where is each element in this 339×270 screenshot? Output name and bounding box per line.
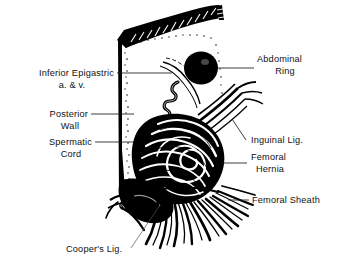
label-abdominal-ring-line1: Abdominal xyxy=(257,54,302,64)
anatomy-figure: Inferior Epigastric a. & v. Posterior Wa… xyxy=(0,0,339,270)
label-femoral-sheath: Femoral Sheath xyxy=(252,195,320,205)
label-femoral-hernia-line1: Femoral xyxy=(251,152,286,162)
label-inguinal-ligament: Inguinal Lig. xyxy=(251,135,303,145)
label-femoral-hernia-line2: Hernia xyxy=(256,164,285,174)
label-inferior-epigastric-line2: a. & v. xyxy=(59,80,86,90)
label-spermatic-cord-line2: Cord xyxy=(61,149,82,159)
label-coopers-ligament: Cooper's Lig. xyxy=(66,244,122,254)
label-abdominal-ring-line2: Ring xyxy=(275,66,295,76)
anatomy-illustration: Inferior Epigastric a. & v. Posterior Wa… xyxy=(0,0,339,270)
label-inferior-epigastric-line1: Inferior Epigastric xyxy=(39,68,114,78)
label-spermatic-cord-line1: Spermatic xyxy=(49,137,92,147)
label-posterior-wall-line1: Posterior xyxy=(50,109,88,119)
label-posterior-wall-line2: Wall xyxy=(61,121,79,131)
